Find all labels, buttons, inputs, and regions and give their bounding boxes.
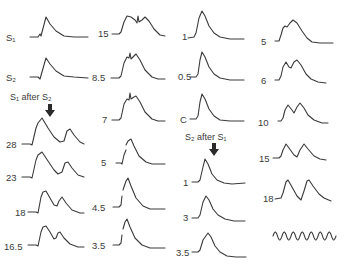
trace-label: 6	[261, 75, 266, 86]
trace-1	[188, 11, 244, 39]
trace-8-5	[111, 53, 165, 79]
trace-7	[112, 93, 165, 121]
trace-label: 18	[15, 207, 26, 218]
trace-18	[28, 191, 84, 213]
figure-traces: S₁ S₂ S₁ after S₂ 28 23 18 16.5 15 8.5 7…	[0, 0, 345, 273]
trace-5	[116, 139, 165, 164]
trace-label: C	[180, 114, 187, 125]
trace-c	[190, 94, 244, 121]
trace-4-10	[278, 103, 328, 123]
trace-label: 3.5	[176, 247, 189, 258]
trace-label: S₂	[6, 72, 16, 83]
section-header-s2-after-s1: S₂ after S₁	[185, 132, 227, 142]
arrow-down-icon	[45, 104, 55, 117]
column-1: S₁ S₂ S₁ after S₂ 28 23 18 16.5	[4, 17, 88, 252]
trace-4-15	[273, 144, 326, 160]
trace-label: 1	[182, 31, 187, 42]
arrow-down-icon	[209, 143, 219, 156]
column-3: 1 0.5 C S₂ after S₁ 1 3 3.5	[176, 11, 246, 258]
trace-23	[22, 152, 84, 178]
column-2: 15 8.5 7 5 4.5 3.5	[92, 16, 165, 251]
trace-3-5	[113, 219, 165, 248]
trace-16-5	[28, 226, 84, 247]
trace-4-6	[275, 60, 326, 83]
trace-label: 7	[102, 114, 107, 125]
trace-label: 15	[98, 28, 109, 39]
trace-15	[112, 16, 165, 36]
trace-label: 5	[261, 36, 266, 47]
trace-4-18	[275, 180, 331, 201]
trace-28	[22, 118, 84, 145]
trace-label: 10	[258, 117, 269, 128]
trace-s2-3-5	[192, 233, 246, 257]
trace-label: 1	[183, 177, 188, 188]
trace-label: 8.5	[92, 72, 105, 83]
calibration-sine-wave	[273, 232, 336, 240]
trace-label: 0.5	[178, 71, 191, 82]
trace-label: 23	[6, 172, 17, 183]
trace-label: 18	[263, 193, 274, 204]
column-4: 5 6 10 15 18	[258, 20, 336, 240]
trace-label: 15	[259, 153, 270, 164]
trace-label: S₁	[6, 32, 16, 43]
trace-label: 3	[183, 212, 188, 223]
trace-s2	[30, 58, 88, 79]
trace-label: 4.5	[92, 202, 105, 213]
trace-label: 3.5	[92, 240, 105, 251]
trace-4-5	[275, 20, 333, 43]
trace-s2-3	[192, 196, 245, 221]
section-header-s1-after-s2: S₁ after S₂	[10, 92, 52, 102]
trace-label: 28	[6, 139, 17, 150]
trace-s2-1	[192, 159, 245, 184]
trace-s1	[30, 17, 88, 37]
trace-label: 5	[101, 157, 106, 168]
trace-0-5	[190, 52, 244, 80]
trace-label: 16.5	[4, 241, 23, 252]
trace-4-5	[113, 178, 165, 209]
